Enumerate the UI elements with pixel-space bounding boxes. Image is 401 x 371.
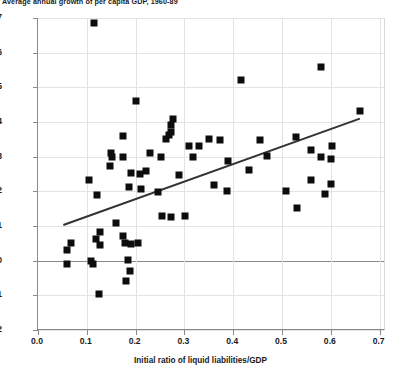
- x-axis-tick-label: 0.2: [129, 336, 141, 346]
- data-point: [182, 213, 189, 220]
- y-axis-tick: [33, 157, 38, 158]
- data-point: [237, 77, 244, 84]
- data-point: [210, 182, 217, 189]
- data-point: [64, 246, 71, 253]
- y-axis-tick: [33, 261, 38, 262]
- data-point: [257, 137, 264, 144]
- data-point: [96, 290, 103, 297]
- y-axis-tick-label: -0.02: [0, 324, 2, 334]
- y-axis-tick: [33, 53, 38, 54]
- plot-area: [37, 18, 385, 330]
- x-axis-tick-label: 0.0: [31, 336, 43, 346]
- x-axis-tick: [136, 330, 137, 335]
- data-point: [357, 107, 364, 114]
- data-point: [318, 63, 325, 70]
- data-point: [135, 239, 142, 246]
- y-axis-tick-label: 0.05: [0, 81, 2, 91]
- data-point: [167, 121, 174, 128]
- data-point: [293, 204, 300, 211]
- data-point: [125, 256, 132, 263]
- y-axis-tick: [33, 191, 38, 192]
- gridline-vertical: [380, 18, 381, 329]
- data-point: [327, 156, 334, 163]
- x-axis-tick: [38, 330, 39, 335]
- data-point: [205, 135, 212, 142]
- y-axis-tick-label: 0.01: [0, 220, 2, 230]
- data-point: [143, 168, 150, 175]
- data-point: [186, 142, 193, 149]
- x-axis-tick: [184, 330, 185, 335]
- y-axis-tick: [33, 18, 38, 19]
- x-axis-title: Initial ratio of liquid liabilities/GDP: [0, 356, 401, 365]
- y-axis-tick: [33, 87, 38, 88]
- data-point: [167, 213, 174, 220]
- y-axis-tick-label: 0.04: [0, 116, 2, 126]
- data-point: [85, 177, 92, 184]
- data-point: [64, 261, 71, 268]
- data-point: [321, 191, 328, 198]
- x-axis-tick-label: 0.4: [226, 336, 238, 346]
- gridline-vertical: [184, 18, 185, 329]
- y-axis-tick-label: -0.01: [0, 289, 2, 299]
- gridline-horizontal: [38, 53, 384, 54]
- gridline-horizontal: [38, 226, 384, 227]
- data-point: [125, 184, 132, 191]
- x-axis-tick: [87, 330, 88, 335]
- data-point: [127, 241, 134, 248]
- x-axis-tick: [331, 330, 332, 335]
- data-point: [216, 137, 223, 144]
- data-point: [147, 149, 154, 156]
- data-point: [282, 187, 289, 194]
- data-point: [327, 180, 334, 187]
- data-point: [120, 233, 127, 240]
- data-point: [245, 166, 252, 173]
- y-axis-tick-label: 0.00: [0, 255, 2, 265]
- gridline-vertical: [233, 18, 234, 329]
- x-axis-tick-label: 0.6: [324, 336, 336, 346]
- data-point: [91, 20, 98, 27]
- gridline-horizontal: [38, 295, 384, 296]
- chart-title: Average annual growth of per capita GDP,…: [2, 0, 178, 6]
- y-axis-tick-label: 0.06: [0, 47, 2, 57]
- data-point: [196, 143, 203, 150]
- gridline-horizontal: [38, 191, 384, 192]
- data-point: [126, 268, 133, 275]
- x-axis-tick-label: 0.3: [177, 336, 189, 346]
- data-point: [120, 153, 127, 160]
- data-point: [92, 236, 99, 243]
- data-point: [328, 142, 335, 149]
- data-point: [68, 239, 75, 246]
- gridline-horizontal: [38, 122, 384, 123]
- gridline-horizontal: [38, 330, 384, 331]
- data-point: [122, 277, 129, 284]
- data-point: [138, 186, 145, 193]
- gridline-vertical: [87, 18, 88, 329]
- data-point: [97, 229, 104, 236]
- gridline-horizontal: [38, 87, 384, 88]
- data-point: [159, 212, 166, 219]
- data-point: [308, 177, 315, 184]
- data-point: [175, 171, 182, 178]
- data-point: [292, 133, 299, 140]
- data-point: [93, 192, 100, 199]
- x-axis-tick-label: 0.7: [373, 336, 385, 346]
- data-point: [107, 163, 114, 170]
- data-point: [224, 188, 231, 195]
- x-axis-tick: [380, 330, 381, 335]
- data-point: [127, 170, 134, 177]
- data-point: [89, 261, 96, 268]
- data-point: [154, 189, 161, 196]
- data-point: [264, 152, 271, 159]
- data-point: [113, 220, 120, 227]
- x-axis-tick-label: 0.1: [80, 336, 92, 346]
- x-axis-tick: [233, 330, 234, 335]
- data-point: [109, 153, 116, 160]
- data-point: [308, 146, 315, 153]
- y-axis-tick-label: 0.03: [0, 151, 2, 161]
- x-axis-tick: [282, 330, 283, 335]
- x-axis-tick-label: 0.5: [275, 336, 287, 346]
- y-axis-tick: [33, 226, 38, 227]
- data-point: [190, 153, 197, 160]
- y-axis-tick-label: 0.07: [0, 12, 2, 22]
- y-axis-tick-label: 0.02: [0, 185, 2, 195]
